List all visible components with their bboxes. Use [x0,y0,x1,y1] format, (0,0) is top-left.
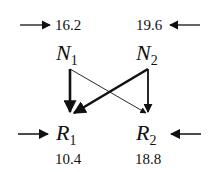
r2-output-value: 18.8 [135,151,161,167]
flow-diagram: 16.2 19.6 N1 N2 R1 R2 10.4 18.8 [0,0,219,172]
node-r2: R2 [135,120,156,148]
n2-input-value: 19.6 [136,17,163,33]
n1-input-value: 16.2 [55,17,81,33]
node-r1: R1 [55,120,76,148]
edge-n2-r1 [74,69,148,113]
r1-output-value: 10.4 [55,151,82,167]
node-n2: N2 [135,40,158,68]
node-n1: N1 [55,40,78,68]
